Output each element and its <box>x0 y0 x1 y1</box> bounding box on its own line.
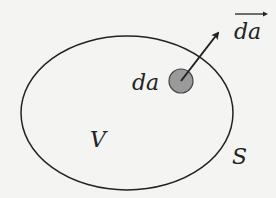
volume-label: V <box>90 127 108 152</box>
vector-overline-tip <box>263 12 268 17</box>
area-vector-label: da <box>234 19 261 44</box>
surface-ellipse <box>21 36 233 190</box>
area-element-label: da <box>132 70 159 95</box>
diagram-canvas: da V S da <box>0 0 276 198</box>
area-vector-arrow <box>181 33 218 81</box>
diagram-svg: da V S da <box>0 0 276 198</box>
surface-label: S <box>232 144 247 169</box>
